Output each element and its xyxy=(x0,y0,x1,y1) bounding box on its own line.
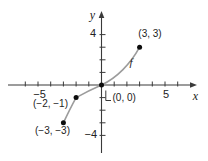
function-graph-figure: (3, 3)(0, 0)(−2, −1)(−3, −3)−554−4yxf xyxy=(0,0,208,161)
point-label: (0, 0) xyxy=(113,92,136,103)
y-tick-label: 4 xyxy=(90,27,96,39)
x-tick-label: −5 xyxy=(33,88,46,100)
x-axis-arrowhead-icon xyxy=(190,82,197,88)
x-tick-label: 5 xyxy=(163,88,169,100)
y-axis-arrowhead-icon xyxy=(99,11,105,18)
point-dot xyxy=(99,83,104,88)
y-axis-label: y xyxy=(89,8,96,22)
origin-label-leader-line xyxy=(106,91,111,101)
graph-svg: (3, 3)(0, 0)(−2, −1)(−3, −3)−554−4yxf xyxy=(0,0,208,161)
point-dot xyxy=(74,95,79,100)
y-tick-label: −4 xyxy=(84,128,97,140)
point-dot xyxy=(137,45,142,50)
x-axis-label: x xyxy=(192,89,199,103)
point-label: (−3, −3) xyxy=(35,125,70,136)
point-label: (3, 3) xyxy=(138,28,161,39)
